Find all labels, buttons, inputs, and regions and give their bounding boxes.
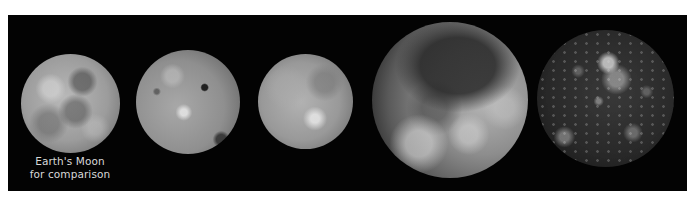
caption-line-1: Earth's Moon (20, 155, 120, 168)
europa-moon-image (258, 54, 353, 149)
ganymede-moon-image (372, 22, 528, 178)
earths-moon-image (21, 54, 120, 153)
io-moon-image (136, 50, 240, 154)
moon-caption: Earth's Moon for comparison (20, 155, 120, 180)
callisto-moon-image (537, 30, 674, 167)
caption-line-2: for comparison (20, 168, 120, 181)
crater-speckle (537, 30, 674, 167)
